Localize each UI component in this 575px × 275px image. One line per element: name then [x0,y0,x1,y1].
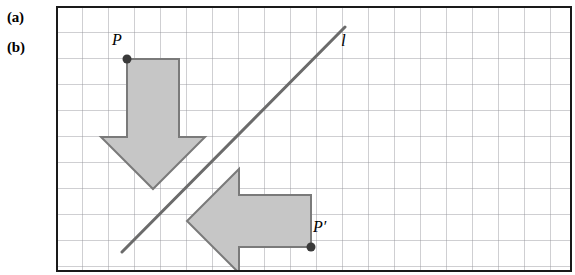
point-label-P: P [112,31,122,49]
part-label-b: (b) [7,39,25,56]
point-P-marker [123,55,132,64]
line-label-l: l [341,31,346,51]
part-label-a: (a) [7,9,24,26]
point-P-prime-marker [307,243,316,252]
figure-canvas: (a) (b) P P′ l [0,0,575,275]
point-label-P-prime: P′ [313,218,326,236]
